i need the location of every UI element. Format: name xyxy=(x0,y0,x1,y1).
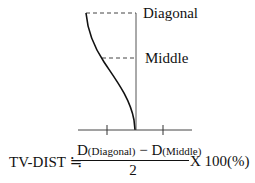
minus-operator: − xyxy=(136,142,152,158)
formula-numerator: D(Diagonal) − D(Middle) xyxy=(77,142,189,161)
d-diagonal-subscript: (Diagonal) xyxy=(88,145,136,157)
d-symbol: D xyxy=(77,142,88,158)
formula-fraction: D(Diagonal) − D(Middle) 2 xyxy=(77,142,189,179)
deflection-curve xyxy=(86,13,135,130)
label-diagonal: Diagonal xyxy=(143,6,198,21)
tv-dist-formula: TV-DIST ≒ D(Diagonal) − D(Middle) 2 X 10… xyxy=(0,142,255,182)
d-symbol: D xyxy=(151,142,162,158)
label-middle: Middle xyxy=(145,51,188,66)
formula-lhs: TV-DIST ≒ xyxy=(9,153,82,171)
formula-denominator: 2 xyxy=(77,162,189,179)
formula-rhs: X 100(%) xyxy=(190,153,250,170)
deflection-diagram xyxy=(0,0,255,140)
